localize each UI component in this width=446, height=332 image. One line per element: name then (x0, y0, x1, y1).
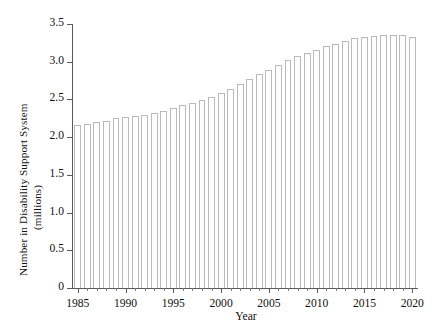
x-tick-minor (250, 288, 251, 291)
x-tick-minor (384, 288, 385, 291)
bar (371, 36, 378, 288)
x-tick-minor (240, 288, 241, 291)
x-tick-major (269, 288, 270, 293)
x-tick-minor (374, 288, 375, 291)
x-tick-minor (278, 288, 279, 291)
x-tick-minor (326, 288, 327, 291)
y-tick-label: 2.5 (50, 91, 65, 104)
x-tick-major (221, 288, 222, 293)
x-tick-minor (355, 288, 356, 291)
bar (323, 46, 330, 288)
x-tick-label: 2000 (210, 297, 233, 310)
x-tick-minor (87, 288, 88, 291)
bar (179, 105, 186, 288)
y-tick-label: 2.0 (50, 129, 65, 142)
bar (304, 53, 311, 288)
bar (227, 89, 234, 288)
bar (103, 121, 110, 288)
x-tick-minor (202, 288, 203, 291)
bar (390, 35, 397, 288)
bar (285, 60, 292, 288)
x-tick-minor (345, 288, 346, 291)
y-axis-title: Number in Disability Support System (17, 103, 29, 276)
y-tick-mark (67, 62, 72, 63)
x-axis-title: Year (0, 310, 446, 323)
x-tick-major (364, 288, 365, 293)
y-tick-label: 0.5 (50, 242, 65, 255)
bar (265, 70, 272, 288)
bar (208, 97, 215, 288)
x-tick-major (412, 288, 413, 293)
plot-area: 00.51.01.52.02.53.03.5 19851990199520002… (72, 24, 418, 288)
bar (74, 125, 81, 288)
bar (275, 65, 282, 288)
bar (218, 93, 225, 288)
y-tick-label: 3.0 (50, 54, 65, 67)
bar (399, 35, 406, 288)
x-tick-label: 2010 (305, 297, 328, 310)
y-axis-units: (millions) (31, 185, 43, 230)
y-tick-mark (67, 213, 72, 214)
x-tick-minor (212, 288, 213, 291)
x-tick-major (126, 288, 127, 293)
bar (160, 111, 167, 288)
x-tick-minor (192, 288, 193, 291)
bar (351, 38, 358, 288)
bar (342, 41, 349, 288)
x-tick-minor (336, 288, 337, 291)
bar (122, 117, 129, 288)
y-tick-mark (67, 24, 72, 25)
x-tick-minor (97, 288, 98, 291)
x-tick-minor (288, 288, 289, 291)
y-tick-label: 3.5 (50, 16, 65, 29)
x-tick-minor (298, 288, 299, 291)
x-tick-minor (393, 288, 394, 291)
x-tick-major (173, 288, 174, 293)
bar (294, 56, 301, 288)
y-tick-label: 1.5 (50, 167, 65, 180)
x-tick-label: 2015 (353, 297, 376, 310)
bar (170, 108, 177, 288)
y-tick-mark (67, 288, 72, 289)
y-tick-mark (67, 250, 72, 251)
bar (132, 116, 139, 288)
x-axis-title-text: Year (235, 310, 256, 323)
x-tick-minor (183, 288, 184, 291)
x-tick-minor (106, 288, 107, 291)
x-tick-label: 2005 (257, 297, 280, 310)
bar (113, 118, 120, 288)
x-tick-minor (154, 288, 155, 291)
x-tick-minor (231, 288, 232, 291)
bar (380, 35, 387, 288)
x-axis-line (72, 288, 418, 289)
bar (93, 122, 100, 288)
x-tick-minor (164, 288, 165, 291)
chart-figure: Number in Disability Support System (mil… (0, 0, 446, 332)
bar (141, 115, 148, 288)
y-tick-mark (67, 99, 72, 100)
x-tick-minor (116, 288, 117, 291)
x-tick-minor (403, 288, 404, 291)
x-tick-major (317, 288, 318, 293)
x-tick-label: 1990 (114, 297, 137, 310)
bar (313, 50, 320, 288)
x-tick-minor (145, 288, 146, 291)
y-axis-title-group: Number in Disability Support System (mil… (0, 0, 40, 300)
bar (84, 124, 91, 288)
x-tick-label: 1985 (66, 297, 89, 310)
bar (332, 44, 339, 288)
x-tick-minor (307, 288, 308, 291)
bar (237, 84, 244, 288)
y-tick-label: 1.0 (50, 205, 65, 218)
bar (246, 79, 253, 288)
y-tick-label: 0 (58, 280, 64, 293)
bar (189, 103, 196, 288)
x-tick-minor (135, 288, 136, 291)
x-tick-label: 2020 (401, 297, 424, 310)
bar (361, 37, 368, 288)
x-tick-minor (259, 288, 260, 291)
y-tick-mark (67, 175, 72, 176)
bar (409, 37, 416, 288)
bar (256, 74, 263, 288)
x-tick-label: 1995 (162, 297, 185, 310)
